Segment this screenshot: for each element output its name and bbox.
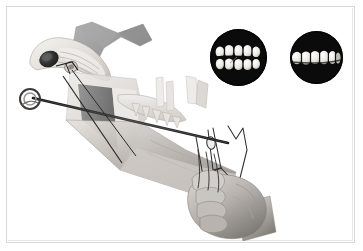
anterior-teeth-slabs — [156, 76, 208, 111]
inset-occlusion-frontal — [210, 29, 267, 86]
figure-root: Lateral view of skull and mandible with … — [0, 0, 363, 251]
inset-occlusion-lateral — [290, 31, 343, 84]
hand-gripping-chin — [188, 170, 276, 241]
